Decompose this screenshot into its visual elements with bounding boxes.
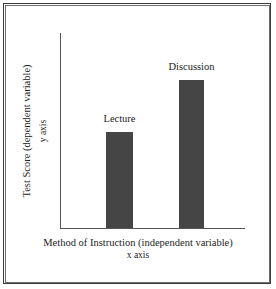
bar-label-discussion: Discussion bbox=[152, 61, 231, 72]
bar-discussion bbox=[179, 80, 204, 228]
y-axis-line bbox=[60, 33, 61, 229]
y-axis-label-group: Test Score (dependent variable) y axis bbox=[14, 33, 56, 229]
y-axis-label-sub: y axis bbox=[38, 120, 48, 142]
x-axis-label-group: Method of Instruction (independent varia… bbox=[16, 236, 260, 261]
bar-lecture bbox=[106, 132, 133, 228]
x-axis-line bbox=[60, 228, 245, 229]
plot-area: Lecture Discussion Test Score (dependent… bbox=[0, 0, 276, 289]
x-axis-label-sub: x axis bbox=[16, 249, 260, 261]
x-axis-label: Method of Instruction (independent varia… bbox=[16, 236, 260, 249]
chart-screenshot: Lecture Discussion Test Score (dependent… bbox=[0, 0, 276, 289]
bar-label-lecture: Lecture bbox=[80, 113, 159, 124]
y-axis-label: Test Score (dependent variable) bbox=[21, 64, 32, 197]
